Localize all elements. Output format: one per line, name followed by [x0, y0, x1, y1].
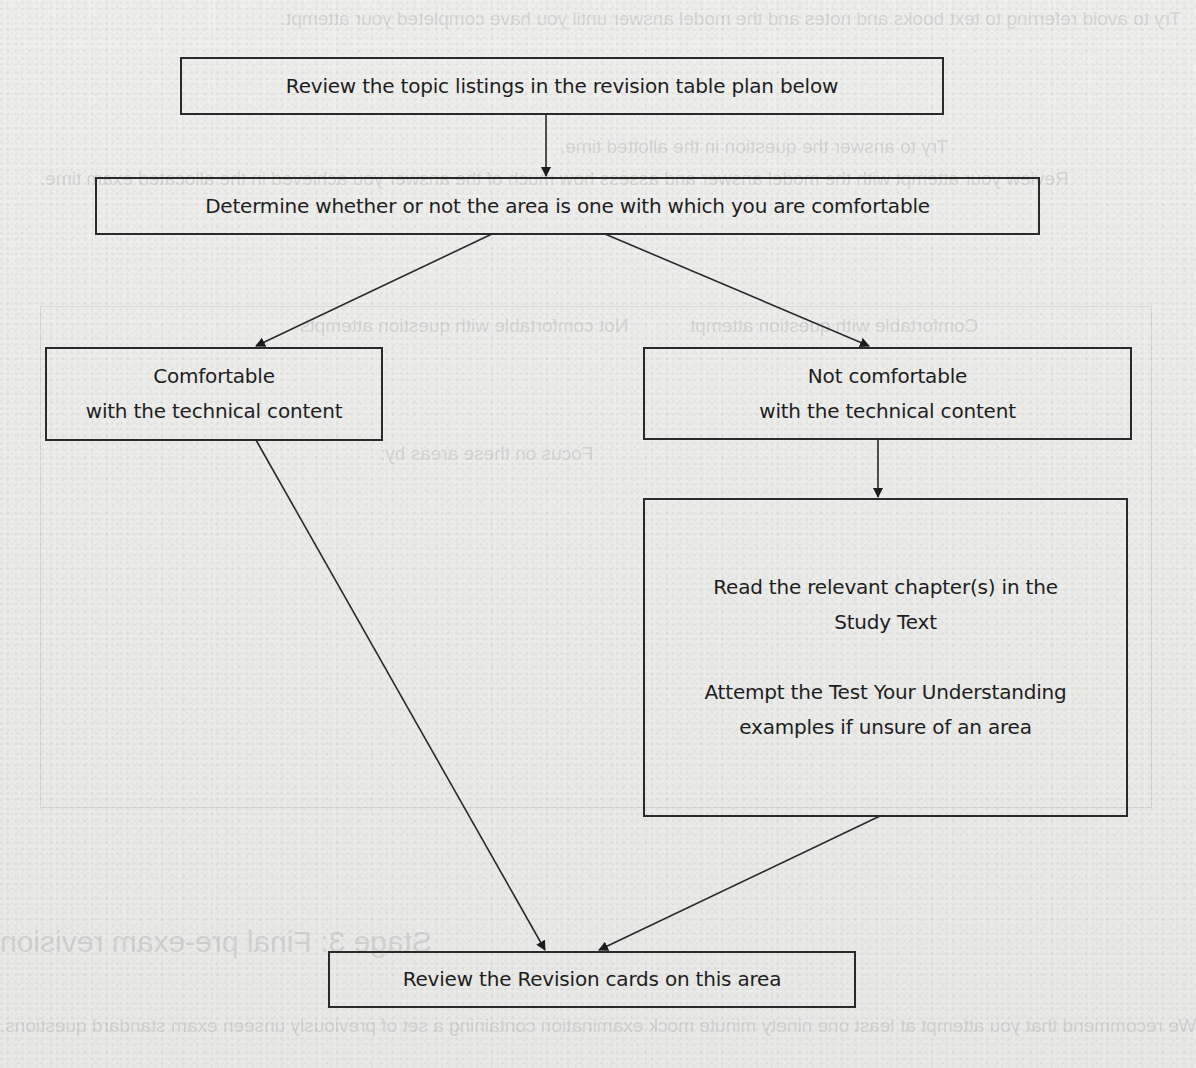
node-label-line-1: Not comfortable: [808, 359, 967, 394]
arrow-comfortable-to-review-cards: [256, 440, 545, 950]
node-label-line-1: Comfortable: [153, 359, 275, 394]
node-review-topics: Review the topic listings in the revisio…: [180, 57, 944, 115]
node-paragraph-1-line-2: Study Text: [834, 605, 937, 640]
node-paragraph-2-line-2: examples if unsure of an area: [739, 710, 1031, 745]
arrow-read-to-review-cards: [599, 816, 880, 950]
node-determine-comfort: Determine whether or not the area is one…: [95, 177, 1040, 235]
node-paragraph-2-line-1: Attempt the Test Your Understanding: [704, 675, 1066, 710]
node-label: Review the topic listings in the revisio…: [286, 69, 838, 104]
node-review-cards: Review the Revision cards on this area: [328, 951, 856, 1008]
node-label: Review the Revision cards on this area: [403, 962, 782, 997]
node-read-chapters: Read the relevant chapter(s) in the Stud…: [643, 498, 1128, 817]
node-not-comfortable: Not comfortable with the technical conte…: [643, 347, 1132, 440]
node-comfortable: Comfortable with the technical content: [45, 347, 383, 441]
node-label-line-2: with the technical content: [759, 394, 1016, 429]
node-label-line-2: with the technical content: [86, 394, 343, 429]
node-paragraph-1-line-1: Read the relevant chapter(s) in the: [713, 570, 1058, 605]
arrow-determine-to-comfortable: [256, 234, 492, 346]
arrow-determine-to-not-comfortable: [605, 234, 869, 346]
node-label: Determine whether or not the area is one…: [205, 189, 930, 224]
